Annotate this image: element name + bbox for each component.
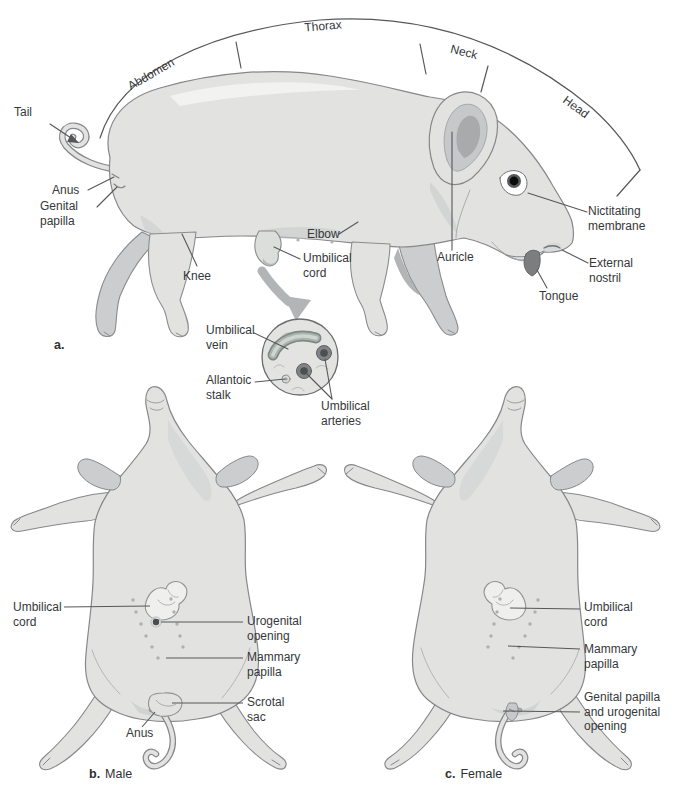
label-allantoic-stalk: Allantoic stalk: [206, 373, 258, 402]
umbilical-inset: [262, 319, 338, 395]
label-tail: Tail: [14, 105, 32, 120]
label-umbilical-cord-a: Umbilical cord: [303, 251, 359, 280]
figure-letter-a: a.: [54, 338, 69, 352]
figure-fetal-pig-anatomy: Abdomen Thorax Neck Head Tail Anus Genit…: [0, 0, 676, 797]
label-knee: Knee: [183, 269, 211, 284]
figure-letter-c-text: c.: [445, 767, 455, 781]
label-genital-papilla-a: Genital papilla: [40, 199, 92, 228]
figure-caption-c-text: Female: [460, 767, 502, 781]
figure-caption-b: b.Male: [89, 767, 132, 781]
label-anus-b: Anus: [126, 726, 153, 741]
label-nictitating-membrane: Nictitating membrane: [588, 204, 658, 233]
figure-caption-b-text: Male: [105, 767, 132, 781]
label-umbilical-cord-c: Umbilical cord: [584, 600, 640, 629]
label-mammary-papilla-b: Mammary papilla: [247, 650, 309, 679]
label-elbow: Elbow: [307, 227, 340, 242]
label-urogenital-opening: Urogenital opening: [247, 614, 311, 643]
label-genital-papilla-urogenital: Genital papilla and urogenital opening: [584, 690, 676, 734]
label-anus-a: Anus: [52, 183, 79, 198]
label-mammary-papilla-c: Mammary papilla: [584, 642, 646, 671]
label-umbilical-arteries: Umbilical arteries: [321, 399, 377, 428]
label-tongue: Tongue: [539, 289, 578, 304]
label-scrotal-sac: Scrotal sac: [247, 695, 293, 724]
figure-letter-b-text: b.: [89, 767, 100, 781]
figure-letter-a-text: a.: [54, 338, 64, 352]
label-auricle: Auricle: [437, 250, 474, 265]
label-umbilical-cord-b: Umbilical cord: [13, 600, 69, 629]
label-external-nostril: External nostril: [589, 256, 645, 285]
label-umbilical-vein: Umbilical vein: [206, 323, 262, 352]
figure-caption-c: c.Female: [445, 767, 502, 781]
scrotal-sac-shape: [148, 693, 182, 717]
